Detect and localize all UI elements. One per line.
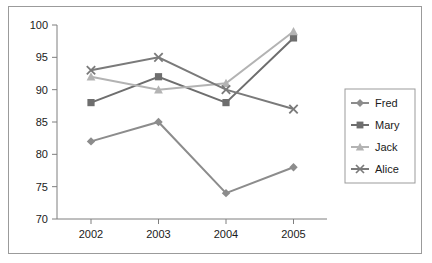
y-tick-label-80: 80 bbox=[36, 148, 48, 160]
x-tick-label-2005: 2005 bbox=[281, 228, 305, 240]
chart-plot-area: 100 95 90 85 80 75 70 2002 2003 2004 200… bbox=[9, 7, 423, 255]
legend-label-fred: Fred bbox=[375, 97, 398, 109]
series-alice bbox=[87, 53, 298, 113]
y-tick-label-90: 90 bbox=[36, 84, 48, 96]
y-tick-label-100: 100 bbox=[30, 19, 48, 31]
legend-label-jack: Jack bbox=[375, 141, 398, 153]
y-tick-label-70: 70 bbox=[36, 213, 48, 225]
series-layer bbox=[87, 27, 298, 197]
y-tick-label-75: 75 bbox=[36, 181, 48, 193]
y-tick-label-85: 85 bbox=[36, 116, 48, 128]
series-jack bbox=[87, 27, 298, 93]
series-fred bbox=[87, 118, 298, 198]
legend-label-alice: Alice bbox=[375, 163, 399, 175]
legend-label-mary: Mary bbox=[375, 119, 400, 131]
series-mary bbox=[87, 34, 297, 106]
y-tick-label-95: 95 bbox=[36, 51, 48, 63]
x-tick-label-2004: 2004 bbox=[214, 228, 238, 240]
x-tick-label-2003: 2003 bbox=[146, 228, 170, 240]
line-chart-svg: 100 95 90 85 80 75 70 2002 2003 2004 200… bbox=[9, 7, 423, 255]
chart-container: 100 95 90 85 80 75 70 2002 2003 2004 200… bbox=[8, 6, 422, 254]
x-tick-label-2002: 2002 bbox=[79, 228, 103, 240]
